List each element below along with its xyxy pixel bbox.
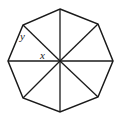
angle-label-x: x <box>39 49 45 61</box>
octagon-diagram: y x <box>0 0 121 118</box>
spoke-top-right <box>60 24 98 61</box>
angle-label-y: y <box>19 30 25 42</box>
spoke-bottom-left <box>23 61 60 98</box>
spoke-bottom-right <box>60 61 98 97</box>
